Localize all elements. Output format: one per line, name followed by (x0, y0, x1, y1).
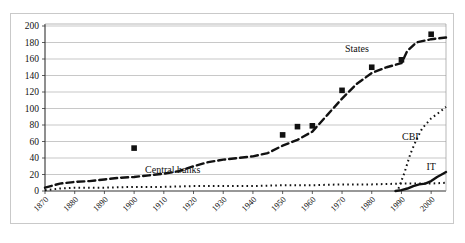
data-point-marker (295, 124, 301, 130)
svg-text:1960: 1960 (299, 194, 318, 213)
svg-text:1990: 1990 (388, 194, 407, 213)
data-point-marker (339, 88, 345, 94)
svg-text:1950: 1950 (269, 194, 288, 213)
data-point-marker (399, 57, 405, 63)
svg-text:2000: 2000 (417, 194, 436, 213)
svg-text:1900: 1900 (120, 194, 139, 213)
chart-canvas: 020406080100120140160180200 187018801890… (11, 14, 453, 223)
svg-text:1970: 1970 (328, 194, 347, 213)
svg-text:1930: 1930 (210, 194, 229, 213)
annotation-central-banks: Central banks (145, 164, 200, 175)
svg-text:1920: 1920 (180, 194, 199, 213)
svg-text:140: 140 (25, 71, 40, 81)
data-point-marker (310, 123, 316, 129)
svg-text:180: 180 (25, 38, 40, 48)
svg-text:1910: 1910 (150, 194, 169, 213)
svg-text:40: 40 (30, 153, 40, 163)
svg-text:1870: 1870 (31, 194, 50, 213)
grid-lines (45, 26, 446, 175)
annotation-it: IT (426, 161, 435, 172)
svg-text:1940: 1940 (239, 194, 258, 213)
y-axis-ticks: 020406080100120140160180200 (25, 21, 45, 196)
data-series (45, 38, 446, 191)
chart-outer-frame: 020406080100120140160180200 187018801890… (10, 13, 454, 224)
chart-figure: 020406080100120140160180200 187018801890… (0, 0, 465, 243)
svg-text:60: 60 (30, 137, 40, 147)
annotation-cbi: CBI (402, 131, 419, 142)
data-markers (131, 31, 434, 150)
svg-text:1890: 1890 (91, 194, 110, 213)
svg-text:1980: 1980 (358, 194, 377, 213)
svg-text:120: 120 (25, 87, 40, 97)
data-point-marker (280, 132, 286, 138)
svg-text:100: 100 (25, 104, 40, 114)
series-line-states (45, 38, 446, 188)
data-point-marker (131, 145, 137, 151)
svg-text:0: 0 (34, 186, 39, 196)
axis-lines (45, 24, 446, 191)
svg-text:20: 20 (30, 170, 40, 180)
svg-text:1880: 1880 (61, 194, 80, 213)
svg-text:160: 160 (25, 54, 40, 64)
data-point-marker (428, 31, 434, 37)
svg-text:200: 200 (25, 21, 40, 31)
x-axis-ticks: 1870188018901900191019201930194019501960… (31, 191, 436, 213)
series-line-central-banks (45, 183, 446, 190)
data-point-marker (369, 64, 375, 70)
annotation-states: States (345, 43, 369, 54)
svg-text:80: 80 (30, 120, 40, 130)
series-annotations: StatesCentral banksCBIIT (145, 43, 436, 174)
